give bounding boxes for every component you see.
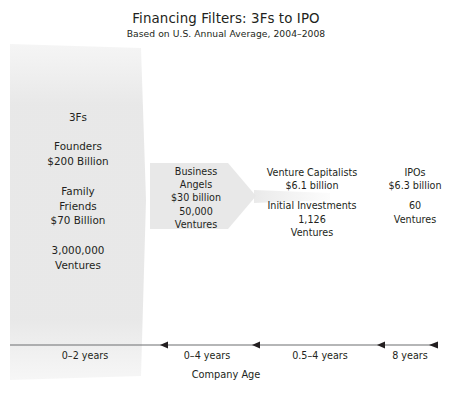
stage-business-angels-ventures-count: 50,000 <box>152 205 240 218</box>
page-title: Financing Filters: 3Fs to IPO <box>0 10 452 27</box>
axis-tick-labels: 0–2 years 0–4 years 0.5–4 years 8 years <box>0 349 452 367</box>
stage-three-fs-family-amount: $70 Billion <box>10 213 146 227</box>
axis-arrow-3 <box>377 342 385 349</box>
axis-tick-label-4: 8 years <box>375 349 445 363</box>
axis-arrow-2 <box>252 342 260 349</box>
stage-venture-capitalists-title: Venture Capitalists <box>243 166 381 179</box>
stage-venture-capitalists-amount: $6.1 billion <box>243 179 381 192</box>
funnel-diagram: Financing Filters: 3Fs to IPO Based on U… <box>0 0 452 400</box>
stage-three-fs-ventures-count: 3,000,000 <box>10 243 146 257</box>
stage-business-angels-ventures-word: Ventures <box>152 218 240 231</box>
stage-three-fs: 3Fs Founders $200 Billion Family Friends… <box>10 110 146 272</box>
stage-ipos-amount: $6.3 billion <box>378 179 452 192</box>
stage-venture-capitalists-note: Initial Investments <box>243 199 381 212</box>
stage-three-fs-family-label: Family <box>10 184 146 198</box>
stage-ipos-ventures-count: 60 <box>378 199 452 212</box>
axis-title: Company Age <box>0 369 452 380</box>
stage-three-fs-founders-label: Founders <box>10 139 146 153</box>
stage-three-fs-friends-label: Friends <box>10 199 146 213</box>
stage-three-fs-founders-amount: $200 Billion <box>10 154 146 168</box>
stage-venture-capitalists-ventures-count: 1,126 <box>243 213 381 226</box>
stage-ipos-ventures-word: Ventures <box>378 213 452 226</box>
axis-arrow-1 <box>160 342 168 349</box>
stage-ipos: IPOs $6.3 billion 60 Ventures <box>378 166 452 226</box>
title-block: Financing Filters: 3Fs to IPO Based on U… <box>0 10 452 40</box>
stage-venture-capitalists-ventures-word: Ventures <box>243 226 381 239</box>
stage-business-angels-title-2: Angels <box>152 178 240 191</box>
stage-business-angels-amount: $30 billion <box>152 191 240 204</box>
stage-venture-capitalists: Venture Capitalists $6.1 billion Initial… <box>243 166 381 239</box>
axis-arrow-4 <box>429 342 438 349</box>
page-subtitle: Based on U.S. Annual Average, 2004–2008 <box>0 27 452 40</box>
stage-three-fs-ventures-word: Ventures <box>10 258 146 272</box>
axis-tick-label-3: 0.5–4 years <box>260 349 380 363</box>
stage-business-angels: Business Angels $30 billion 50,000 Ventu… <box>152 165 240 231</box>
stage-ipos-title: IPOs <box>378 166 452 179</box>
stage-business-angels-title-1: Business <box>152 165 240 178</box>
stage-three-fs-title: 3Fs <box>10 110 146 124</box>
axis-tick-label-1: 0–2 years <box>30 349 140 363</box>
axis-tick-label-2: 0–4 years <box>157 349 257 363</box>
